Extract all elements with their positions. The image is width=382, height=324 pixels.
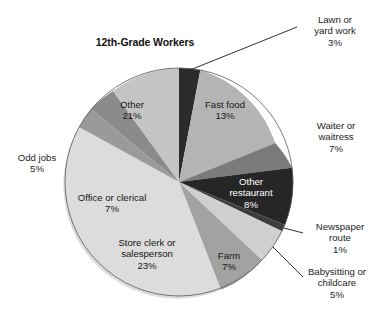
callout-label-waiter-or-waitress: Waiter or waitress 7% (294, 120, 378, 154)
callout-label-babysitting-or-childcare: Babysitting or childcare 5% (294, 266, 380, 300)
callout-label-lawn-or-yard-work: Lawn or yard work 3% (292, 14, 378, 48)
leader-line-lawn-or-yard-work (190, 27, 297, 70)
callout-label-odd-jobs: Odd jobs 5% (4, 152, 70, 175)
callout-label-newspaper-route: Newspaper route 1% (300, 221, 380, 255)
pie-chart-figure: 12th-Grade Workers (0, 0, 382, 324)
